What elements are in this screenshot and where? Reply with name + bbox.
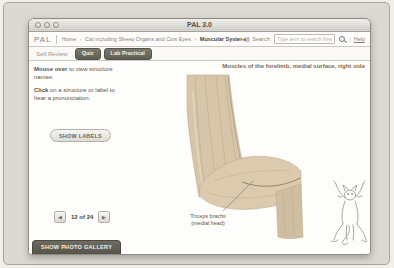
- next-image-button[interactable]: ▶: [98, 211, 110, 223]
- pal-logo: PAL: [34, 35, 57, 44]
- search-label: Search:: [252, 36, 271, 42]
- tab-lab-practical[interactable]: Lab Practical: [104, 48, 152, 60]
- search-input[interactable]: [274, 34, 335, 44]
- content-area: Muscles of the forelimb, medial surface,…: [29, 61, 370, 254]
- page-background: PAL 3.0 PAL Home › Cat including Sheep O…: [3, 2, 390, 265]
- breadcrumb-separator: ›: [194, 36, 196, 42]
- breadcrumb-separator: ›: [80, 36, 82, 42]
- app-header: PAL Home › Cat including Sheep Organs an…: [29, 32, 370, 47]
- show-labels-button[interactable]: SHOW LABELS: [50, 129, 111, 142]
- mode-tabs: Self Review Quiz Lab Practical: [29, 47, 370, 61]
- image-caption: Muscles of the forelimb, medial surface,…: [222, 63, 365, 69]
- breadcrumb-current: Muscular System: [200, 36, 242, 42]
- breadcrumb: Home › Cat including Sheep Organs and Co…: [62, 36, 243, 42]
- cat-mascot-sketch: [331, 181, 367, 244]
- structure-label-triceps-brachii[interactable]: Triceps brachii (medial head): [184, 213, 232, 227]
- show-photo-gallery-button[interactable]: SHOW PHOTO GALLERY: [32, 240, 121, 254]
- breadcrumb-home-link[interactable]: Home: [62, 36, 77, 42]
- search-icon[interactable]: [338, 35, 346, 43]
- instructions-panel: Mouse over to view structure names. Clic…: [34, 65, 116, 107]
- tab-self-review[interactable]: Self Review: [36, 51, 68, 57]
- page-indicator: 12 of 24: [71, 214, 93, 220]
- breadcrumb-module-link[interactable]: Cat including Sheep Organs and Cow Eyes: [85, 36, 191, 42]
- speaker-icon[interactable]: ◀))): [242, 36, 249, 42]
- instruction-click: Click on a structure or label to hear a …: [34, 86, 116, 102]
- pal-application-window: PAL 3.0 PAL Home › Cat including Sheep O…: [28, 18, 371, 255]
- screenshot-frame: PAL 3.0 PAL Home › Cat including Sheep O…: [0, 0, 394, 268]
- header-tools: ◀))) Search: | Help: [242, 34, 365, 44]
- instruction-mouse-over: Mouse over to view structure names.: [34, 65, 116, 81]
- window-titlebar[interactable]: PAL 3.0: [29, 19, 370, 32]
- tab-quiz[interactable]: Quiz: [75, 48, 101, 60]
- image-pagination: ◀ 12 of 24 ▶: [54, 211, 110, 223]
- previous-image-button[interactable]: ◀: [54, 211, 66, 223]
- window-title: PAL 3.0: [29, 21, 370, 28]
- help-link[interactable]: Help: [354, 36, 365, 42]
- header-divider: |: [349, 36, 350, 42]
